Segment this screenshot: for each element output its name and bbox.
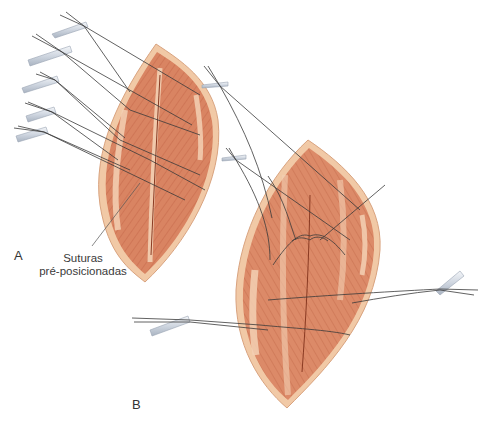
hemostat-clamp-icon bbox=[202, 82, 228, 88]
illustration-canvas bbox=[0, 0, 484, 421]
wound-b bbox=[236, 140, 380, 408]
panel-label-b: B bbox=[132, 397, 141, 412]
wound-b-fascia-band bbox=[253, 270, 256, 355]
hemostat-clamp-icon bbox=[22, 76, 59, 93]
panel-label-a: A bbox=[14, 248, 23, 263]
hemostat-clamp-icon bbox=[26, 107, 56, 122]
callout-line-2: pré-posicionadas bbox=[38, 265, 128, 278]
suture-thread bbox=[66, 12, 130, 92]
callout-line-1: Suturas bbox=[38, 252, 128, 265]
hemostat-clamp-icon bbox=[52, 22, 88, 38]
hemostat-clamp-icon bbox=[28, 46, 72, 66]
callout-label: Suturas pré-posicionadas bbox=[38, 252, 128, 278]
wound-a bbox=[99, 44, 219, 282]
